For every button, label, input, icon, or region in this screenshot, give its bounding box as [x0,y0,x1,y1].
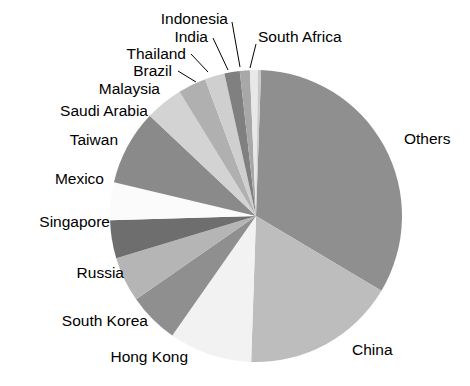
slice-label-hong-kong: Hong Kong [110,348,188,365]
slice-label-indonesia: Indonesia [161,10,229,27]
slice-label-russia: Russia [77,264,125,281]
slice-label-south-korea: South Korea [62,312,149,329]
slice-label-saudi-arabia: Saudi Arabia [60,102,148,119]
slice-label-south-africa: South Africa [258,28,342,45]
leader-line-brazil [178,71,196,82]
pie-slices-group [110,70,402,362]
slice-label-singapore: Singapore [39,213,110,230]
leader-line-south-africa [250,44,256,68]
slice-label-mexico: Mexico [55,170,104,187]
slice-label-thailand: Thailand [127,45,186,62]
slice-label-india: India [174,28,208,45]
pie-chart: OthersChinaHong KongSouth KoreaRussiaSin… [0,0,470,386]
slice-label-taiwan: Taiwan [70,131,118,148]
slice-label-brazil: Brazil [133,62,172,79]
slice-label-china: China [352,341,393,358]
leader-line-thailand [191,54,208,72]
leader-line-indonesia [232,22,240,67]
slice-label-others: Others [404,130,451,147]
pie-chart-canvas: OthersChinaHong KongSouth KoreaRussiaSin… [0,0,470,386]
slice-label-malaysia: Malaysia [99,80,161,97]
leader-line-india [213,38,228,70]
